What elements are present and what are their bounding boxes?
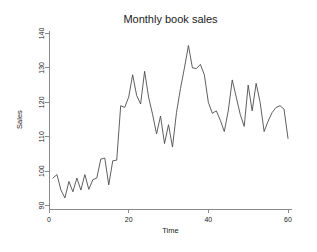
chart-canvas: Monthly book sales9010011012013014002040… xyxy=(0,0,317,252)
y-tick-label: 100 xyxy=(38,165,45,177)
y-tick-label: 90 xyxy=(38,202,45,210)
x-axis-title: Time xyxy=(162,226,178,235)
chart-figure: Monthly book sales9010011012013014002040… xyxy=(0,0,317,252)
series-line-sales xyxy=(53,45,288,197)
x-tick-label: 60 xyxy=(284,216,292,223)
y-tick-label: 120 xyxy=(38,96,45,108)
x-tick-label: 20 xyxy=(125,216,133,223)
y-tick-label: 130 xyxy=(38,62,45,74)
y-tick-label: 140 xyxy=(38,27,45,39)
x-tick-label: 40 xyxy=(204,216,212,223)
y-axis-title: Sales xyxy=(15,110,24,129)
chart-title: Monthly book sales xyxy=(123,13,218,25)
y-tick-label: 110 xyxy=(38,131,45,142)
x-tick-label: 0 xyxy=(47,216,51,223)
